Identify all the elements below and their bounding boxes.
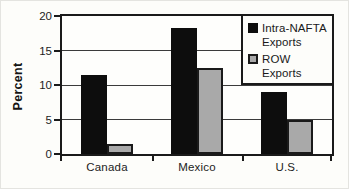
- legend-swatch-intra-nafta-exports-icon: [248, 23, 258, 33]
- y-tick-mark-15: [54, 50, 60, 52]
- x-axis-boundary-tick-0: [60, 155, 62, 161]
- bar-us-series-0: [261, 92, 287, 154]
- legend-swatch-row-exports-icon: [248, 54, 258, 64]
- legend-item-intra-nafta-exports: Intra-NAFTA Exports: [248, 21, 330, 49]
- y-tick-mark-10: [54, 84, 60, 86]
- y-axis-title: Percent: [11, 47, 26, 127]
- legend-label-row-exports: ROW Exports: [262, 52, 330, 80]
- nafta-exports-bar-chart: Percent 05101520 CanadaMexicoU.S. Intra-…: [0, 0, 349, 189]
- y-tick-mark-5: [54, 119, 60, 121]
- legend: Intra-NAFTA Exports ROW Exports: [241, 14, 334, 85]
- x-axis-boundary-tick-2: [242, 155, 244, 161]
- bar-mexico-series-0: [171, 28, 197, 154]
- bar-canada-series-1: [107, 144, 133, 154]
- x-tick-label-us: U.S.: [242, 161, 332, 173]
- bar-mexico-series-1: [197, 68, 223, 154]
- x-tick-label-mexico: Mexico: [152, 161, 242, 173]
- x-axis-boundary-tick-1: [152, 155, 154, 161]
- x-tick-label-canada: Canada: [62, 161, 152, 173]
- y-tick-label-15: 15: [28, 45, 52, 57]
- y-tick-label-5: 5: [28, 114, 52, 126]
- x-axis: CanadaMexicoU.S.: [60, 161, 334, 177]
- y-tick-label-20: 20: [28, 10, 52, 22]
- y-tick-label-10: 10: [28, 79, 52, 91]
- legend-item-row-exports: ROW Exports: [248, 52, 330, 80]
- bar-us-series-1: [287, 120, 313, 155]
- x-axis-boundary-tick-3: [330, 155, 332, 161]
- bar-canada-series-0: [81, 75, 107, 154]
- y-tick-label-0: 0: [28, 148, 52, 160]
- y-tick-mark-20: [54, 15, 60, 17]
- legend-label-intra-nafta-exports: Intra-NAFTA Exports: [262, 21, 330, 49]
